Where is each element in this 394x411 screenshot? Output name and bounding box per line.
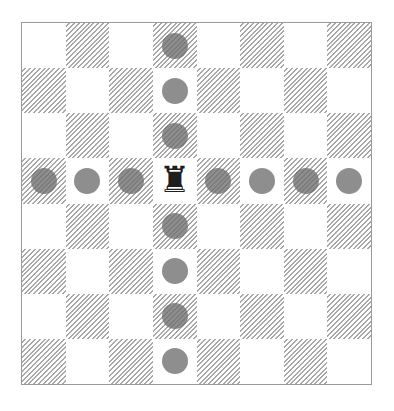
- board-square[interactable]: [240, 339, 284, 384]
- board-square[interactable]: [197, 249, 241, 294]
- board-square[interactable]: [66, 23, 110, 68]
- board-square[interactable]: [240, 249, 284, 294]
- board-square[interactable]: [240, 294, 284, 339]
- board-square[interactable]: [109, 249, 153, 294]
- board-square[interactable]: [197, 68, 241, 113]
- board-square[interactable]: [197, 113, 241, 158]
- board-square[interactable]: [327, 113, 371, 158]
- move-marker[interactable]: [205, 168, 231, 194]
- board-square[interactable]: [153, 204, 197, 249]
- board-square[interactable]: [109, 68, 153, 113]
- board-square[interactable]: [22, 294, 66, 339]
- board-square[interactable]: [240, 204, 284, 249]
- board-square[interactable]: [66, 68, 110, 113]
- board-square[interactable]: [109, 204, 153, 249]
- board-square[interactable]: [109, 113, 153, 158]
- move-marker[interactable]: [31, 168, 57, 194]
- board-square[interactable]: [240, 68, 284, 113]
- board-square[interactable]: [153, 249, 197, 294]
- board-square[interactable]: [22, 204, 66, 249]
- board-square[interactable]: [327, 249, 371, 294]
- chess-board: ♜: [21, 22, 372, 385]
- board-square[interactable]: [284, 23, 328, 68]
- move-marker[interactable]: [162, 258, 188, 284]
- move-marker[interactable]: [336, 168, 362, 194]
- black-rook-icon[interactable]: ♜: [159, 162, 191, 198]
- board-square[interactable]: [109, 158, 153, 203]
- board-square[interactable]: [66, 204, 110, 249]
- move-marker[interactable]: [162, 348, 188, 374]
- board-square[interactable]: [66, 158, 110, 203]
- board-square[interactable]: [109, 294, 153, 339]
- board-square[interactable]: [284, 204, 328, 249]
- board-square[interactable]: [153, 68, 197, 113]
- board-square[interactable]: [66, 294, 110, 339]
- board-square[interactable]: [66, 113, 110, 158]
- board-square[interactable]: [284, 158, 328, 203]
- move-marker[interactable]: [162, 33, 188, 59]
- move-marker[interactable]: [249, 168, 275, 194]
- board-square[interactable]: [109, 339, 153, 384]
- board-square[interactable]: [22, 113, 66, 158]
- board-square[interactable]: [327, 158, 371, 203]
- board-square[interactable]: [153, 294, 197, 339]
- board-square[interactable]: [22, 158, 66, 203]
- board-square[interactable]: [197, 158, 241, 203]
- board-square[interactable]: [284, 339, 328, 384]
- board-square[interactable]: [153, 23, 197, 68]
- board-square[interactable]: [327, 204, 371, 249]
- board-square[interactable]: [284, 294, 328, 339]
- board-square[interactable]: [240, 23, 284, 68]
- board-square[interactable]: [197, 23, 241, 68]
- board-square[interactable]: [153, 339, 197, 384]
- move-marker[interactable]: [162, 303, 188, 329]
- board-square[interactable]: [327, 23, 371, 68]
- move-marker[interactable]: [118, 168, 144, 194]
- board-square[interactable]: ♜: [153, 158, 197, 203]
- board-square[interactable]: [327, 68, 371, 113]
- move-marker[interactable]: [162, 78, 188, 104]
- board-square[interactable]: [22, 249, 66, 294]
- board-square[interactable]: [66, 339, 110, 384]
- move-marker[interactable]: [293, 168, 319, 194]
- board-square[interactable]: [197, 294, 241, 339]
- board-square[interactable]: [327, 339, 371, 384]
- board-square[interactable]: [284, 249, 328, 294]
- board-square[interactable]: [66, 249, 110, 294]
- board-square[interactable]: [197, 339, 241, 384]
- board-square[interactable]: [284, 68, 328, 113]
- board-square[interactable]: [197, 204, 241, 249]
- board-square[interactable]: [22, 68, 66, 113]
- board-square[interactable]: [327, 294, 371, 339]
- board-square[interactable]: [109, 23, 153, 68]
- board-square[interactable]: [284, 113, 328, 158]
- board-square[interactable]: [153, 113, 197, 158]
- board-square[interactable]: [240, 113, 284, 158]
- move-marker[interactable]: [162, 213, 188, 239]
- move-marker[interactable]: [74, 168, 100, 194]
- board-square[interactable]: [22, 23, 66, 68]
- move-marker[interactable]: [162, 123, 188, 149]
- board-square[interactable]: [240, 158, 284, 203]
- board-square[interactable]: [22, 339, 66, 384]
